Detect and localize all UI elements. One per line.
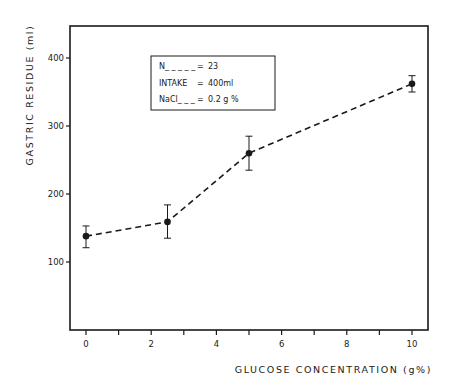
legend-row-intake-eq: = (197, 79, 204, 88)
legend-row-nacl-eq: = (197, 95, 204, 104)
legend-box: N_ _ _ _ _ = 23 INTAKE = 400ml NaCl_ _ _… (151, 56, 275, 110)
y-axis-label: GASTRIC RESIDUE (ml) (24, 25, 35, 166)
x-axis-label: GLUCOSE CONCENTRATION (g%) (235, 364, 432, 375)
x-tick-label: 2 (148, 339, 153, 349)
line-chart: 100200300400 0246810 GASTRIC RESIDUE (ml… (0, 0, 450, 388)
y-tick-label: 100 (48, 257, 64, 267)
legend-row-n-eq: = (197, 62, 204, 71)
y-axis-ticks: 100200300400 (48, 53, 70, 267)
x-tick-label: 10 (407, 339, 418, 349)
data-point-marker (164, 219, 171, 226)
x-tick-label: 0 (83, 339, 88, 349)
data-point-marker (409, 81, 416, 88)
x-tick-label: 8 (344, 339, 349, 349)
legend-row-n-value: 23 (208, 62, 218, 71)
data-point-marker (246, 150, 253, 157)
x-tick-label: 6 (279, 339, 284, 349)
x-tick-label: 4 (214, 339, 219, 349)
legend-row-nacl-value: 0.2 g % (208, 95, 239, 104)
legend-row-nacl-label: NaCl_ _ _ (159, 95, 196, 104)
data-point-marker (83, 233, 90, 240)
y-tick-label: 300 (48, 121, 64, 131)
y-tick-label: 400 (48, 53, 64, 63)
y-tick-label: 200 (48, 189, 64, 199)
legend-row-intake-value: 400ml (208, 79, 233, 88)
x-axis-ticks: 0246810 (83, 330, 417, 349)
legend-row-n-label: N_ _ _ _ _ (159, 62, 196, 71)
legend-row-intake-label: INTAKE (159, 79, 187, 88)
